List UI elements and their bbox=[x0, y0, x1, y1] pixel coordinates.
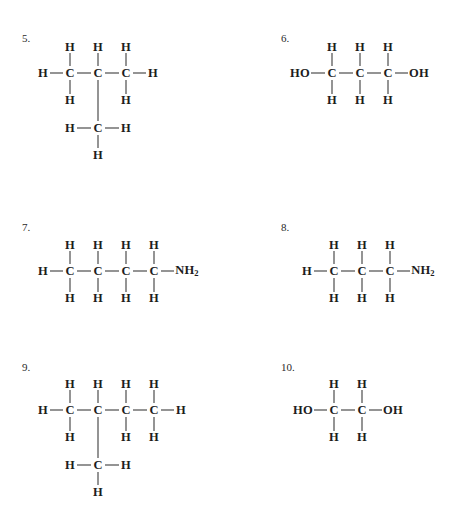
bond-line bbox=[98, 472, 99, 485]
atom-label-nh2: NH2 bbox=[175, 264, 199, 277]
atom-label-h: H bbox=[149, 292, 159, 305]
bond-line bbox=[395, 73, 408, 74]
atom-label-c: C bbox=[355, 67, 364, 80]
bond-line bbox=[362, 390, 363, 403]
atom-label-c: C bbox=[329, 404, 338, 417]
bond-line bbox=[98, 80, 99, 121]
atom-label-h: H bbox=[65, 378, 75, 391]
bond-line bbox=[98, 135, 99, 148]
bond-line bbox=[334, 251, 335, 264]
atom-label-c: C bbox=[121, 404, 130, 417]
atom-label-c: C bbox=[93, 265, 102, 278]
atom-label-c: C bbox=[149, 265, 158, 278]
bond-line bbox=[98, 417, 99, 458]
atom-label-c: C bbox=[357, 265, 366, 278]
atom-label-c: C bbox=[65, 404, 74, 417]
atom-label-h: H bbox=[357, 292, 367, 305]
atom-label-h: H bbox=[121, 239, 131, 252]
atom-label-h: H bbox=[65, 41, 75, 54]
atom-label-h: H bbox=[302, 265, 312, 278]
atom-label-h: H bbox=[65, 292, 75, 305]
atom-label-c: C bbox=[93, 404, 102, 417]
bond-line bbox=[50, 410, 63, 411]
question-number: 9. bbox=[22, 362, 30, 373]
bond-line bbox=[70, 251, 71, 264]
atom-label-h: H bbox=[65, 122, 75, 135]
atom-label-h: H bbox=[65, 459, 75, 472]
bond-line bbox=[98, 251, 99, 264]
atom-label-h: H bbox=[65, 94, 75, 107]
atom-label-h: H bbox=[357, 378, 367, 391]
atom-label-h: H bbox=[357, 239, 367, 252]
bond-line bbox=[369, 271, 383, 272]
question-number: 5. bbox=[22, 33, 30, 44]
bond-line bbox=[339, 73, 353, 74]
atom-label-h: H bbox=[329, 239, 339, 252]
atom-label-c: C bbox=[121, 67, 130, 80]
atom-label-h: H bbox=[357, 431, 367, 444]
bond-line bbox=[314, 410, 327, 411]
atom-label-c: C bbox=[121, 265, 130, 278]
atom-label-h: H bbox=[176, 404, 186, 417]
atom-label-c: C bbox=[93, 122, 102, 135]
atom-label-h: H bbox=[149, 431, 159, 444]
atom-label-c: C bbox=[65, 67, 74, 80]
atom-label-h: H bbox=[65, 239, 75, 252]
atom-label-c: C bbox=[93, 67, 102, 80]
bond-line bbox=[154, 251, 155, 264]
atom-label-h: H bbox=[93, 486, 103, 499]
bond-line bbox=[105, 128, 119, 129]
bond-line bbox=[77, 73, 91, 74]
atom-label-h: H bbox=[38, 67, 48, 80]
atom-label-h: H bbox=[38, 404, 48, 417]
atom-label-c: C bbox=[149, 404, 158, 417]
atom-label-h: H bbox=[93, 149, 103, 162]
bond-line bbox=[105, 410, 119, 411]
bond-line bbox=[70, 390, 71, 403]
bond-line bbox=[362, 251, 363, 264]
bond-line bbox=[314, 271, 327, 272]
bond-line bbox=[105, 271, 119, 272]
atom-label-h: H bbox=[327, 94, 337, 107]
bond-line bbox=[388, 53, 389, 66]
atom-label-h: H bbox=[149, 378, 159, 391]
bond-line bbox=[105, 73, 119, 74]
question-number: 6. bbox=[281, 33, 289, 44]
atom-label-h: H bbox=[121, 459, 131, 472]
worksheet-page: 5.HHHHCCCHHHHCHH6.HHHHOCCCOHHHH7.HHHHHCC… bbox=[0, 0, 458, 532]
atom-label-c: C bbox=[93, 459, 102, 472]
atom-label-h: H bbox=[148, 67, 158, 80]
bond-line bbox=[334, 390, 335, 403]
bond-line bbox=[50, 73, 63, 74]
atom-label-h: H bbox=[329, 378, 339, 391]
question-number: 10. bbox=[281, 362, 295, 373]
atom-label-c: C bbox=[357, 404, 366, 417]
question-number: 8. bbox=[281, 222, 289, 233]
bond-line bbox=[70, 53, 71, 66]
atom-label-h: H bbox=[327, 41, 337, 54]
atom-label-ho: HO bbox=[293, 404, 313, 417]
bond-line bbox=[369, 410, 382, 411]
atom-label-ho: HO bbox=[290, 67, 310, 80]
atom-label-h: H bbox=[383, 41, 393, 54]
bond-line bbox=[341, 271, 355, 272]
atom-label-h: H bbox=[385, 239, 395, 252]
atom-label-c: C bbox=[383, 67, 392, 80]
atom-label-oh: OH bbox=[383, 404, 403, 417]
atom-label-h: H bbox=[121, 41, 131, 54]
atom-label-c: C bbox=[327, 67, 336, 80]
atom-label-h: H bbox=[329, 292, 339, 305]
bond-line bbox=[360, 53, 361, 66]
atom-label-oh: OH bbox=[409, 67, 429, 80]
atom-label-nh2: NH2 bbox=[411, 264, 435, 277]
atom-label-h: H bbox=[355, 41, 365, 54]
bond-line bbox=[50, 271, 63, 272]
atom-label-h: H bbox=[121, 378, 131, 391]
bond-line bbox=[367, 73, 381, 74]
question-number: 7. bbox=[22, 222, 30, 233]
atom-label-h: H bbox=[121, 94, 131, 107]
bond-line bbox=[98, 390, 99, 403]
bond-line bbox=[126, 390, 127, 403]
bond-line bbox=[77, 271, 91, 272]
bond-line bbox=[126, 53, 127, 66]
